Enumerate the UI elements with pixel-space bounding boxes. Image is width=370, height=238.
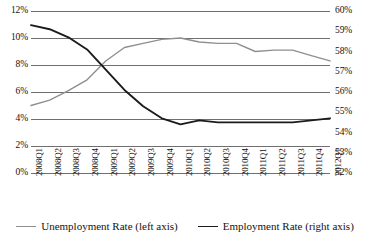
legend-item-unemployment: Unemployment Rate (left axis) [16,220,178,232]
x-axis-tick-label: 2012Q1 [334,148,343,176]
right-axis-tick-label: 58% [335,47,352,57]
right-axis-tick-label: 60% [335,6,352,16]
x-axis-tick-label: 2008Q2 [54,148,63,176]
legend-line-icon-employment [198,226,218,227]
x-axis-tick-label: 2011Q4 [315,149,324,176]
x-axis-tick-label: 2009Q1 [110,148,119,176]
x-axis-tick-label: 2010Q3 [222,148,231,176]
left-axis-tick-label: 0% [16,168,28,178]
x-axis-tick-label: 2010Q2 [203,148,212,176]
x-axis-tick-label: 2010Q1 [185,148,194,176]
x-axis-tick-label: 2010Q4 [241,148,250,176]
right-axis-tick-label: 55% [335,107,352,117]
left-axis-tick-label: 10% [11,33,28,43]
legend-item-employment: Employment Rate (right axis) [198,220,354,232]
unemployment-rate-line [31,38,330,106]
x-axis-tick-label: 2009Q2 [128,148,137,176]
chart-legend: Unemployment Rate (left axis) Employment… [0,220,370,232]
employment-rate-line [31,25,330,124]
x-axis-tick-label: 2009Q3 [147,148,156,176]
left-axis-tick-label: 8% [16,60,28,70]
x-axis-tick-label: 2008Q1 [35,148,44,176]
left-axis-tick-label: 6% [16,87,28,97]
left-axis-tick-label: 2% [16,141,28,151]
chart-plot-area [0,0,370,238]
x-axis-tick-label: 2011Q3 [297,149,306,176]
x-axis-tick-label: 2011Q1 [259,149,268,176]
legend-line-icon-unemployment [16,226,36,227]
x-axis-tick-label: 2009Q4 [166,148,175,176]
legend-label-unemployment: Unemployment Rate (left axis) [41,220,178,232]
x-axis-tick-label: 2008Q4 [91,148,100,176]
right-axis-tick-label: 57% [335,67,352,77]
left-axis-tick-label: 4% [16,114,28,124]
left-axis-tick-label: 12% [11,6,28,16]
legend-label-employment: Employment Rate (right axis) [223,220,354,232]
x-axis-tick-label: 2011Q2 [278,149,287,176]
x-axis-tick-label: 2008Q3 [72,148,81,176]
right-axis-tick-label: 59% [335,26,352,36]
chart-container: 0%2%4%6%8%10%12% 52%53%54%55%56%57%58%59… [0,0,370,238]
right-axis-tick-label: 54% [335,128,352,138]
right-axis-tick-label: 56% [335,87,352,97]
